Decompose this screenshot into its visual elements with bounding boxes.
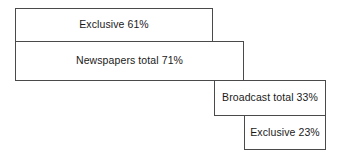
bar-broadcast-total-33: Broadcast total 33% [214,80,326,116]
bar-exclusive-23: Exclusive 23% [244,115,326,150]
bar-label-exclusive-61: Exclusive 61% [79,19,149,31]
bar-label-newspapers-total-71: Newspapers total 71% [76,55,183,67]
bar-label-broadcast-total-33: Broadcast total 33% [222,92,318,104]
bar-label-exclusive-23: Exclusive 23% [250,127,320,139]
bar-exclusive-61: Exclusive 61% [15,8,213,42]
bar-newspapers-total-71: Newspapers total 71% [15,41,244,81]
bar-chart-figure: Exclusive 61% Newspapers total 71% Broad… [0,0,338,159]
